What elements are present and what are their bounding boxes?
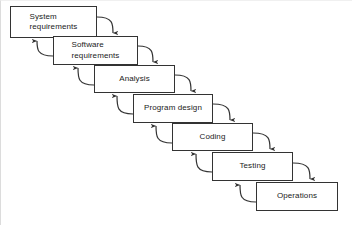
stage-box-operations[interactable]: Operations [256, 182, 338, 211]
feedback-arrow-analysis-to-software-requirements [78, 68, 94, 85]
feedback-arrow-testing-to-coding [196, 154, 212, 172]
stage-label-coding: Coding [196, 132, 230, 143]
feedback-arrow-operations-to-testing [240, 185, 256, 202]
stage-label-operations: Operations [273, 191, 321, 202]
stage-box-analysis[interactable]: Analysis [94, 65, 175, 93]
stage-box-software-requirements[interactable]: Software requirements [53, 36, 138, 65]
forward-arrow-system-requirements-to-software-requirements [97, 17, 113, 33]
stage-box-coding[interactable]: Coding [172, 123, 253, 151]
stage-box-system-requirements[interactable]: System requirements [10, 6, 97, 38]
stage-label-software-requirements: Software requirements [68, 40, 124, 61]
feedback-arrow-software-requirements-to-system-requirements [37, 41, 53, 56]
stage-label-system-requirements: System requirements [26, 12, 82, 33]
stage-label-testing: Testing [235, 161, 269, 172]
stage-box-program-design[interactable]: Program design [133, 94, 213, 123]
forward-arrow-coding-to-testing [253, 133, 270, 149]
stage-box-testing[interactable]: Testing [212, 152, 293, 181]
waterfall-diagram: System requirementsSoftware requirements… [0, 0, 352, 225]
forward-arrow-program-design-to-coding [213, 104, 230, 120]
stage-label-program-design: Program design [140, 103, 206, 114]
forward-arrow-software-requirements-to-analysis [138, 46, 153, 62]
forward-arrow-testing-to-operations [293, 163, 310, 179]
forward-arrow-analysis-to-program-design [175, 75, 191, 91]
feedback-arrow-coding-to-program-design [156, 126, 172, 143]
stage-label-analysis: Analysis [115, 74, 154, 85]
feedback-arrow-program-design-to-analysis [117, 96, 133, 114]
